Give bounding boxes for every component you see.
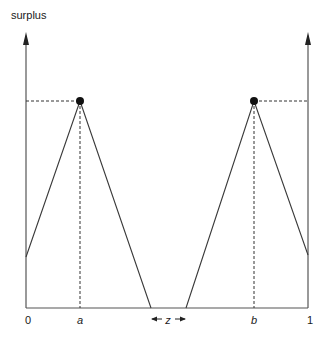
left-axis (23, 32, 29, 308)
right-axis-arrow-icon (305, 32, 311, 45)
arrow-right-icon (180, 317, 186, 322)
surplus-diagram (0, 0, 323, 338)
surplus-tent-b (186, 101, 308, 308)
peak-a-dot-icon (76, 97, 84, 105)
diagram-canvas: surplus 0 a z b 1 (0, 0, 323, 338)
peak-b-dot-icon (250, 97, 258, 105)
arrow-left-icon (151, 317, 157, 322)
surplus-tent-a (26, 101, 151, 308)
tick-label-z: z (165, 315, 171, 326)
left-axis-arrow-icon (23, 32, 29, 45)
tick-label-b: b (251, 315, 257, 326)
y-axis-label: surplus (11, 10, 46, 21)
right-axis (305, 32, 311, 308)
tick-label-one: 1 (307, 315, 313, 326)
tick-label-zero: 0 (25, 315, 31, 326)
tick-label-a: a (77, 315, 83, 326)
